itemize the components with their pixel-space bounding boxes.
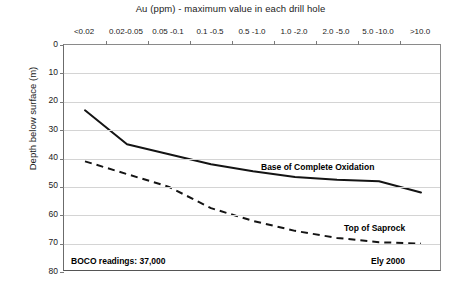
- y-tick-mark-0: [60, 45, 64, 46]
- y-tick-label-30: 30: [49, 125, 58, 134]
- x-tick-label-3: 0.1 -0.5: [189, 26, 231, 37]
- gridline-70: [64, 244, 440, 245]
- y-tick-label-20: 20: [49, 96, 58, 105]
- x-tick-label-6: 2.0 -5.0: [315, 26, 357, 37]
- y-tick-label-10: 10: [49, 68, 58, 77]
- annotation-base-of-complete-oxidation: Base of Complete Oxidation: [261, 162, 374, 172]
- x-tick-label-5: 1.0 -2.0: [273, 26, 315, 37]
- x-tick-mark-1: [106, 41, 107, 45]
- x-tick-mark-2: [148, 41, 149, 45]
- gridline-40: [64, 159, 440, 160]
- y-tick-mark-70: [60, 244, 64, 245]
- x-tick-mark-8: [400, 41, 401, 45]
- x-tick-mark-3: [190, 41, 191, 45]
- gridline-60: [64, 215, 440, 216]
- x-tick-label-0: <0.02: [63, 26, 105, 37]
- x-tick-label-8: >10.0: [399, 26, 441, 37]
- x-tick-label-7: 5.0 -10.0: [357, 26, 399, 37]
- x-tick-mark-6: [316, 41, 317, 45]
- x-tick-mark-4: [232, 41, 233, 45]
- y-tick-mark-60: [60, 215, 64, 216]
- annotation-top-of-saprock: Top of Saprock: [344, 223, 405, 233]
- chart-title: Au (ppm) - maximum value in each drill h…: [0, 3, 461, 14]
- x-tick-label-1: 0.02-0.05: [105, 26, 147, 37]
- y-tick-label-0: 0: [53, 40, 58, 49]
- footnote-source: Ely 2000: [371, 256, 405, 266]
- depth-profile-chart: Au (ppm) - maximum value in each drill h…: [0, 0, 461, 283]
- y-tick-mark-50: [60, 187, 64, 188]
- y-tick-label-80: 80: [49, 267, 58, 276]
- x-axis-tick-labels: <0.020.02-0.050.05 -0.10.1 -0.50.5 -1.01…: [63, 26, 441, 39]
- y-tick-label-50: 50: [49, 181, 58, 190]
- y-tick-mark-30: [60, 130, 64, 131]
- y-tick-label-40: 40: [49, 153, 58, 162]
- x-tick-mark-5: [274, 41, 275, 45]
- y-tick-label-60: 60: [49, 210, 58, 219]
- footnote-boco-readings: BOCO readings: 37,000: [71, 256, 165, 266]
- y-tick-mark-10: [60, 73, 64, 74]
- x-tick-mark-7: [358, 41, 359, 45]
- y-tick-mark-80: [60, 272, 64, 273]
- y-axis-tick-labels: 01020304050607080: [30, 38, 58, 278]
- series-line-base-of-complete-oxidation: [85, 110, 421, 192]
- gridline-10: [64, 73, 440, 74]
- gridline-20: [64, 102, 440, 103]
- y-tick-mark-20: [60, 102, 64, 103]
- x-tick-label-2: 0.05 -0.1: [147, 26, 189, 37]
- gridline-50: [64, 187, 440, 188]
- plot-area: Base of Complete Oxidation Top of Saproc…: [63, 44, 441, 271]
- y-tick-label-70: 70: [49, 238, 58, 247]
- gridline-30: [64, 130, 440, 131]
- x-tick-label-4: 0.5 -1.0: [231, 26, 273, 37]
- y-tick-mark-40: [60, 159, 64, 160]
